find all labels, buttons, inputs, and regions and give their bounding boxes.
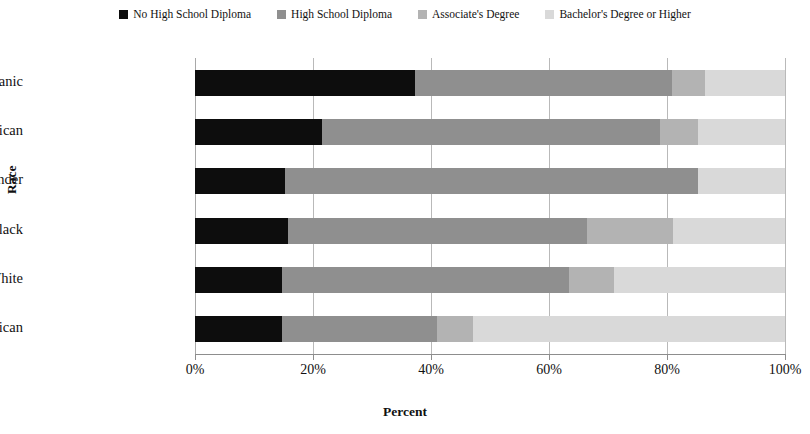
gridline (667, 58, 668, 354)
legend-swatch-icon (545, 10, 554, 19)
x-axis-tick (431, 354, 432, 360)
legend-swatch-icon (418, 10, 427, 19)
legend-swatch-icon (119, 10, 128, 19)
x-axis-title: Percent (0, 404, 810, 420)
x-axis-tick (195, 354, 196, 360)
gridline (431, 58, 432, 354)
bar-segment (698, 168, 785, 194)
bar-segment (473, 316, 785, 342)
bar-row (195, 119, 785, 145)
bar-segment (672, 70, 705, 96)
bar-segment (195, 316, 282, 342)
y-axis-tick-label: White (0, 270, 23, 287)
bar-row (195, 70, 785, 96)
x-axis-line (195, 354, 786, 355)
gridline (195, 58, 196, 354)
bar-segment (195, 119, 322, 145)
bar-row (195, 316, 785, 342)
legend-label: Associate's Degree (432, 8, 519, 20)
bar-row (195, 267, 785, 293)
x-axis-tick (667, 354, 668, 360)
bar-segment (587, 218, 674, 244)
x-axis-tick (549, 354, 550, 360)
bar-row (195, 168, 785, 194)
bar-segment (705, 70, 785, 96)
bar-segment (437, 316, 472, 342)
plot-area (195, 58, 785, 354)
legend-item: Bachelor's Degree or Higher (545, 8, 690, 20)
y-axis-tick-label: Black (0, 221, 23, 238)
x-axis-tick-label: 40% (418, 362, 444, 378)
legend-swatch-icon (277, 10, 286, 19)
bar-segment (195, 218, 288, 244)
x-axis-tick-label: 20% (300, 362, 326, 378)
legend-label: No High School Diploma (133, 8, 251, 20)
bar-segment (282, 267, 569, 293)
y-axis-tick-label: Native American (0, 122, 23, 139)
chart-legend: No High School Diploma High School Diplo… (0, 8, 810, 20)
x-axis-tick-label: 80% (654, 362, 680, 378)
bar-segment (569, 267, 614, 293)
gridline (549, 58, 550, 354)
x-axis-tick-label: 0% (186, 362, 205, 378)
legend-item: No High School Diploma (119, 8, 251, 20)
y-axis-title: Race (4, 166, 20, 194)
legend-label: High School Diploma (291, 8, 392, 20)
bar-segment (673, 218, 785, 244)
legend-label: Bachelor's Degree or Higher (559, 8, 690, 20)
x-axis-tick-label: 100% (769, 362, 802, 378)
bar-segment (195, 267, 282, 293)
bar-segment (285, 168, 698, 194)
x-axis-tick (785, 354, 786, 360)
bar-row (195, 218, 785, 244)
gridline (313, 58, 314, 354)
bar-segment (660, 119, 698, 145)
bar-segment (195, 168, 285, 194)
bar-segment (322, 119, 660, 145)
gridlines (195, 58, 785, 354)
x-axis-tick-label: 60% (536, 362, 562, 378)
bar-segment (614, 267, 785, 293)
y-axis-tick-label: Hispanic (0, 73, 23, 90)
bar-segment (288, 218, 587, 244)
bar-segment (195, 70, 415, 96)
legend-item: High School Diploma (277, 8, 392, 20)
gridline (785, 58, 786, 354)
bar-segment (415, 70, 672, 96)
legend-item: Associate's Degree (418, 8, 519, 20)
x-axis-tick (313, 354, 314, 360)
bar-segment (282, 316, 438, 342)
y-axis-tick-label: Asian American (0, 319, 23, 336)
bar-segment (698, 119, 785, 145)
